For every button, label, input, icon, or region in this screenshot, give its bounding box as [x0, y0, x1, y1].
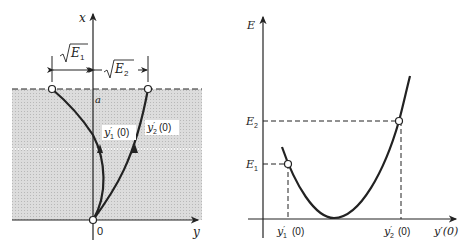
- endpoint-1: [49, 86, 56, 93]
- left-panel: x y 0 a E 1 E 2 y′ 1 (0) y′ 2 (0): [12, 11, 202, 240]
- svg-text:(0): (0): [159, 122, 171, 133]
- e-axis-label: E: [246, 19, 255, 32]
- e1-label: E 1: [245, 158, 258, 172]
- svg-text:E: E: [70, 46, 80, 60]
- svg-text:E: E: [245, 115, 254, 128]
- right-panel: E E 2 E 1 y′ 1 (0) y′ 2 (0) y′(0): [245, 17, 458, 239]
- svg-text:E: E: [245, 158, 254, 171]
- e1-point: [285, 161, 292, 168]
- svg-text:1: 1: [110, 133, 114, 140]
- svg-text:E: E: [114, 62, 124, 76]
- e2-point: [396, 118, 403, 125]
- svg-text:(0): (0): [117, 127, 129, 138]
- tick2-label: y′ 2 (0): [383, 224, 410, 239]
- svg-text:(0): (0): [292, 226, 304, 237]
- tick1-label: y′ 1 (0): [276, 224, 304, 239]
- energy-curve: [282, 76, 410, 218]
- svg-text:1: 1: [283, 232, 287, 239]
- endpoint-2: [145, 86, 152, 93]
- svg-text:2: 2: [124, 69, 129, 78]
- origin-label: 0: [97, 225, 103, 237]
- curve-1-label: y′ 1 (0): [103, 125, 129, 140]
- boundary-label: a: [95, 94, 101, 105]
- svg-text:2: 2: [153, 128, 157, 135]
- curve-2-label: y′ 2 (0): [146, 120, 171, 135]
- svg-text:1: 1: [80, 53, 85, 62]
- y-prime-axis-label: y′(0): [433, 225, 458, 238]
- svg-text:2: 2: [390, 232, 394, 239]
- origin-point: [90, 217, 97, 224]
- sqrt-e1-label: E 1: [60, 44, 88, 62]
- e2-label: E 2: [245, 115, 258, 129]
- svg-text:2: 2: [254, 122, 258, 129]
- diagram-canvas: x y 0 a E 1 E 2 y′ 1 (0) y′ 2 (0): [0, 0, 466, 247]
- x-axis-label: x: [79, 11, 86, 25]
- y-axis-label: y: [192, 225, 200, 239]
- svg-text:1: 1: [254, 165, 258, 172]
- svg-text:(0): (0): [398, 226, 410, 237]
